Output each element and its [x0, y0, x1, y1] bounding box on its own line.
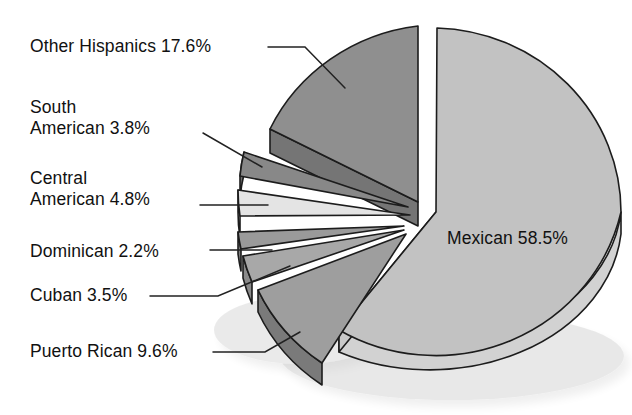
slice-label-mexican: Mexican 58.5%	[447, 228, 568, 249]
slice-label-puerto-rican: Puerto Rican 9.6%	[30, 341, 178, 362]
slice-label-dominican: Dominican 2.2%	[30, 241, 159, 262]
slice-label-other-hispanics: Other Hispanics 17.6%	[30, 36, 211, 57]
slice-label-central-american: Central American 4.8%	[30, 168, 150, 210]
pie-chart: Other Hispanics 17.6% South American 3.8…	[0, 0, 632, 415]
slice-label-south-american: South American 3.8%	[30, 97, 150, 139]
slice-label-cuban: Cuban 3.5%	[30, 285, 127, 306]
leader-line-south-american	[203, 133, 262, 167]
